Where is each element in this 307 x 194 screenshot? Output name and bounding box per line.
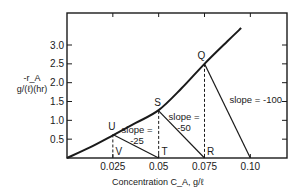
plot-frame: [67, 13, 287, 158]
y-tick-label: 3.0: [50, 40, 64, 51]
slope-line: [205, 64, 251, 158]
rate-curve: [67, 28, 241, 158]
plot-area: 0.51.01.52.02.53.00.0250.050.0750.10USQV…: [0, 0, 307, 194]
point-label-t: T: [162, 146, 168, 157]
y-axis-label-quantity: -r_A: [2, 73, 62, 84]
x-tick-label: 0.05: [149, 161, 169, 172]
slope-annotation-25: slope =: [122, 124, 153, 135]
slope-annotation-50: slope =: [169, 111, 200, 122]
slope-annotation-25: -25: [130, 135, 144, 146]
point-label-r: R: [207, 146, 214, 157]
x-tick-label: 0.10: [241, 161, 261, 172]
slope-annotation-50: -50: [177, 122, 191, 133]
x-tick-label: 0.025: [100, 161, 125, 172]
y-axis-label: -r_A g/(ℓ)(hr): [2, 73, 62, 95]
y-axis-label-units: g/(ℓ)(hr): [2, 84, 62, 95]
x-axis-label: Concentration C_A, g/ℓ: [112, 177, 203, 187]
point-label-q: Q: [198, 50, 206, 61]
x-tick-label: 0.075: [192, 161, 217, 172]
rate-vs-concentration-chart: 0.51.01.52.02.53.00.0250.050.0750.10USQV…: [0, 0, 307, 194]
y-tick-label: 0.5: [50, 134, 64, 145]
slope-annotation-100: slope = -100: [229, 94, 282, 105]
y-tick-label: 1.5: [50, 96, 64, 107]
y-tick-label: 1.0: [50, 115, 64, 126]
point-label-s: S: [154, 97, 161, 108]
point-label-u: U: [108, 121, 115, 132]
y-tick-label: 2.5: [50, 58, 64, 69]
point-label-v: V: [115, 146, 122, 157]
